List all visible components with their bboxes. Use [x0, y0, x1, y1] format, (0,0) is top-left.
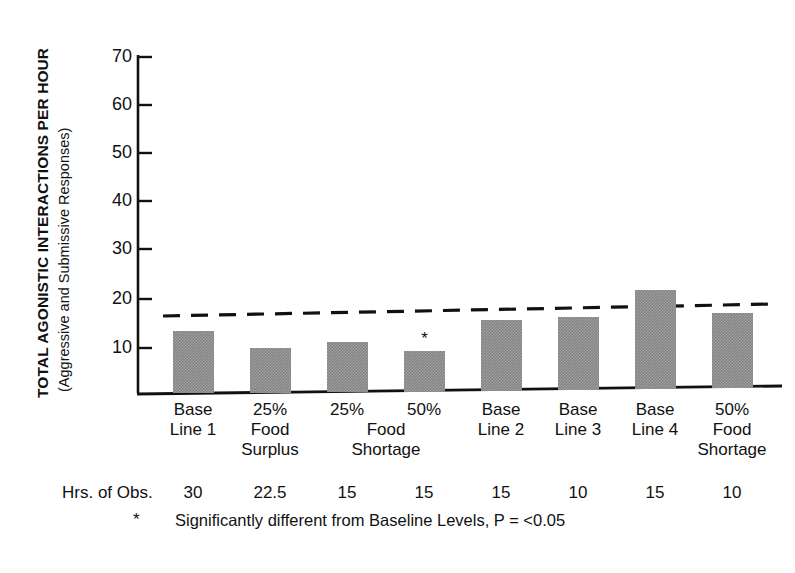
- footnote-star-marker: *: [133, 510, 140, 530]
- hours-value-8: 10: [687, 483, 777, 503]
- y-axis-ticks: [138, 57, 152, 348]
- y-tick-label-60: 60: [88, 94, 132, 115]
- bar-base-line-4: [635, 290, 676, 389]
- category-label-8-line1: 50%: [687, 400, 777, 420]
- group-label-food-shortage-line1: Food: [341, 420, 431, 440]
- group-label-food-shortage: Food Shortage: [341, 420, 431, 460]
- bar-50-food-shortage-b: [712, 313, 753, 388]
- y-tick-label-40: 40: [88, 190, 132, 211]
- significance-star-bar-4: *: [404, 330, 445, 347]
- y-tick-label-70: 70: [88, 46, 132, 67]
- category-label-8: 50% Food Shortage: [687, 400, 777, 460]
- bar-50-food-shortage-a: [404, 351, 445, 392]
- bar-25-food-shortage: [327, 342, 368, 392]
- y-tick-label-20: 20: [88, 288, 132, 309]
- category-label-8-line3: Shortage: [687, 440, 777, 460]
- x-axis-line: [137, 386, 782, 394]
- group-label-food-shortage-line2: Shortage: [341, 440, 431, 460]
- bar-base-line-3: [558, 317, 599, 390]
- hours-of-observation-title: Hrs. of Obs.: [62, 483, 153, 503]
- y-tick-label-10: 10: [88, 337, 132, 358]
- bar-25-food-surplus: [250, 348, 291, 393]
- figure-agonistic-interactions: TOTAL AGONISTIC INTERACTIONS PER HOUR (A…: [0, 0, 795, 573]
- category-label-2-line2: Food: [225, 420, 315, 440]
- y-tick-label-30: 30: [88, 238, 132, 259]
- reference-line-dashed: [163, 304, 775, 316]
- y-tick-label-50: 50: [88, 142, 132, 163]
- category-label-2-line3: Surplus: [225, 440, 315, 460]
- category-label-8-line2: Food: [687, 420, 777, 440]
- bar-base-line-1: [173, 331, 214, 393]
- bar-base-line-2: [481, 320, 522, 391]
- footnote-text: Significantly different from Baseline Le…: [175, 511, 565, 530]
